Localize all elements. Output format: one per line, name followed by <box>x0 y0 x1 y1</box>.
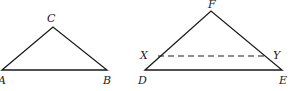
point-label-x: X <box>139 49 149 62</box>
vertex-label-e: E <box>278 74 287 87</box>
geometry-diagram: C A B F X Y D E <box>0 0 288 91</box>
vertex-label-b: B <box>102 74 111 87</box>
triangle-abc <box>2 27 107 70</box>
point-label-y: Y <box>273 49 282 62</box>
vertex-label-f: F <box>207 0 216 11</box>
vertex-label-d: D <box>137 74 147 87</box>
vertex-label-c: C <box>47 12 56 25</box>
triangle-def <box>145 11 282 70</box>
vertex-label-a: A <box>0 74 6 87</box>
